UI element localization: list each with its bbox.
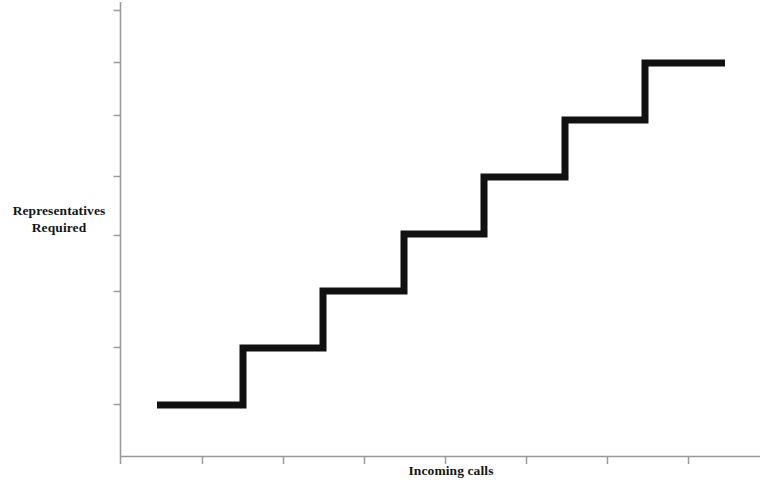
step-chart-figure: Representatives Required Incoming calls <box>0 0 766 488</box>
chart-canvas <box>0 0 766 488</box>
x-axis-label: Incoming calls <box>331 462 571 479</box>
y-axis-label: Representatives Required <box>0 202 118 236</box>
y-axis-label-line-1: Representatives <box>13 203 106 218</box>
step-function-series <box>157 63 725 405</box>
y-axis-label-line-2: Required <box>0 219 118 236</box>
